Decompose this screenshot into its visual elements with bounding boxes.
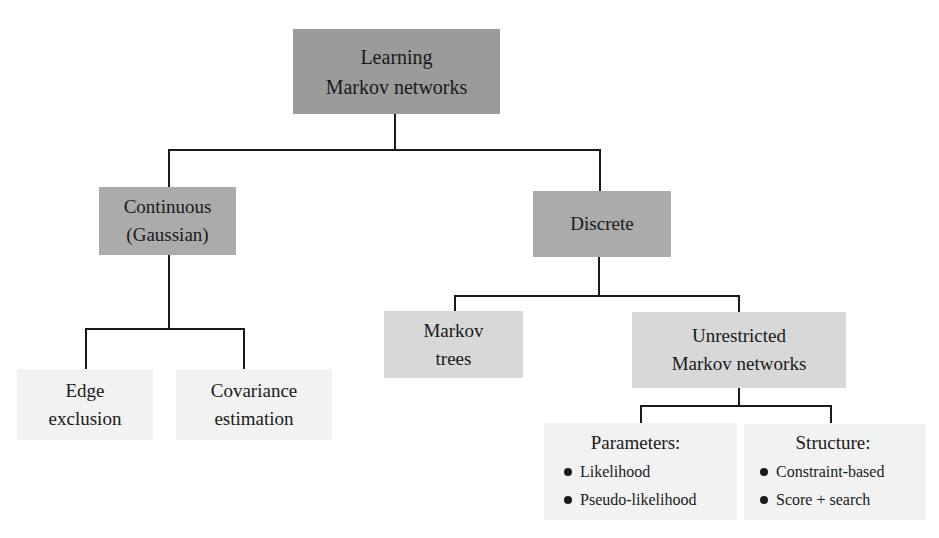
node-label-line2: estimation: [214, 405, 293, 433]
connector-to-structure: [830, 405, 832, 423]
node-learning-markov-networks: Learning Markov networks: [293, 29, 500, 114]
node-label-line2: trees: [436, 345, 472, 373]
list-item-constraint-based: Constraint-based: [760, 458, 884, 486]
bullet-icon: [564, 468, 572, 476]
connector-level1-bar: [168, 149, 601, 151]
node-markov-trees: Markov trees: [384, 311, 523, 378]
node-continuous-gaussian: Continuous (Gaussian): [99, 187, 236, 255]
node-title: Structure:: [796, 430, 871, 456]
node-title: Parameters:: [591, 430, 681, 456]
connector-to-edge: [85, 328, 87, 369]
list-item-label: Pseudo-likelihood: [580, 486, 696, 514]
node-label-line2: Markov networks: [326, 72, 468, 102]
node-label-line1: Unrestricted: [692, 322, 786, 350]
connector-discrete-bar: [454, 295, 740, 297]
connector-to-continuous: [168, 149, 170, 187]
list-item-score-search: Score + search: [760, 486, 870, 514]
node-label-line1: Learning: [360, 42, 432, 72]
connector-to-trees: [454, 295, 456, 311]
node-parameters: Parameters: Likelihood Pseudo-likelihood: [544, 423, 737, 520]
node-label-line1: Markov: [423, 317, 483, 345]
connector-unrestricted-bar: [640, 405, 832, 407]
connector-continuous-bar: [85, 328, 245, 330]
node-discrete: Discrete: [533, 191, 671, 257]
node-unrestricted-markov-networks: Unrestricted Markov networks: [632, 312, 846, 388]
connector-root-down: [394, 114, 396, 151]
node-label-line2: Markov networks: [672, 350, 807, 378]
node-label-line2: exclusion: [49, 405, 122, 433]
bullet-icon: [760, 468, 768, 476]
list-item-label: Constraint-based: [776, 458, 884, 486]
node-label: Discrete: [570, 210, 633, 238]
node-label-line1: Continuous: [124, 193, 212, 221]
bullet-icon: [564, 496, 572, 504]
node-covariance-estimation: Covariance estimation: [176, 369, 332, 440]
connector-to-unrestricted: [738, 295, 740, 312]
connector-to-parameters: [640, 405, 642, 423]
node-edge-exclusion: Edge exclusion: [17, 369, 153, 440]
list-item-likelihood: Likelihood: [564, 458, 650, 486]
list-item-label: Likelihood: [580, 458, 650, 486]
node-label-line1: Edge: [65, 377, 104, 405]
node-label-line2: (Gaussian): [126, 221, 208, 249]
node-label-line1: Covariance: [211, 377, 298, 405]
connector-to-discrete: [599, 149, 601, 191]
list-item-pseudo-likelihood: Pseudo-likelihood: [564, 486, 696, 514]
list-item-label: Score + search: [776, 486, 870, 514]
connector-continuous-down: [168, 255, 170, 330]
bullet-icon: [760, 496, 768, 504]
node-structure: Structure: Constraint-based Score + sear…: [744, 424, 926, 520]
connector-to-covariance: [243, 328, 245, 369]
connector-discrete-down: [598, 257, 600, 297]
